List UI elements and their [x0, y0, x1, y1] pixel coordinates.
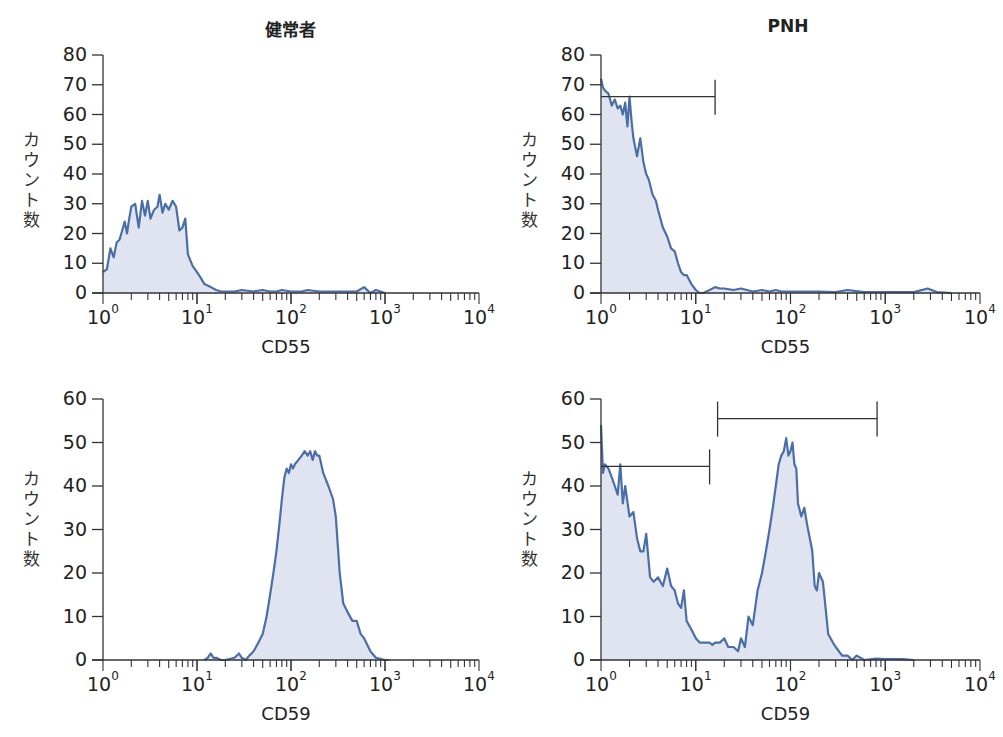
y-axis-label: ト: [521, 190, 538, 210]
y-tick-label: 50: [63, 132, 87, 154]
svg-text:3: 3: [893, 302, 901, 316]
y-tick-label: 0: [75, 648, 87, 670]
x-tick-label: 10: [774, 306, 798, 328]
svg-text:1: 1: [205, 302, 213, 316]
x-axis-label: CD55: [761, 336, 810, 357]
svg-text:1: 1: [704, 669, 712, 683]
svg-text:0: 0: [111, 302, 119, 316]
x-axis-label: CD59: [261, 703, 310, 724]
x-tick-label: 10: [463, 673, 487, 695]
svg-text:3: 3: [893, 669, 901, 683]
y-axis-label: ン: [521, 509, 538, 529]
y-tick-label: 40: [63, 162, 87, 184]
y-axis-label: ン: [23, 170, 40, 190]
histogram-fill: [601, 79, 952, 293]
gate-marker: [718, 402, 877, 437]
x-tick-label: 10: [463, 306, 487, 328]
svg-text:2: 2: [299, 669, 307, 683]
svg-text:3: 3: [393, 302, 401, 316]
y-tick-label: 30: [63, 518, 87, 540]
y-tick-label: 50: [561, 431, 585, 453]
svg-text:1: 1: [704, 302, 712, 316]
x-tick-label: 10: [87, 306, 111, 328]
chart-pnh-cd55: 01020304050607080100101102103104CD55カウント…: [521, 43, 996, 357]
x-tick-label: 10: [680, 306, 704, 328]
y-tick-label: 40: [561, 474, 585, 496]
y-tick-label: 60: [63, 103, 87, 125]
y-tick-label: 20: [63, 222, 87, 244]
y-axis-label: 数: [23, 549, 40, 569]
y-tick-label: 20: [561, 222, 585, 244]
y-axis-label: ウ: [23, 150, 40, 170]
x-tick-label: 10: [275, 306, 299, 328]
y-tick-label: 10: [63, 251, 87, 273]
y-tick-label: 10: [63, 605, 87, 627]
y-axis-label: ウ: [521, 489, 538, 509]
svg-text:0: 0: [609, 302, 617, 316]
x-tick-label: 10: [585, 673, 609, 695]
svg-text:1: 1: [205, 669, 213, 683]
y-axis-label: カ: [521, 130, 538, 150]
y-tick-label: 10: [561, 251, 585, 273]
svg-text:0: 0: [609, 669, 617, 683]
x-tick-label: 10: [869, 306, 893, 328]
y-axis-label: ト: [521, 529, 538, 549]
y-axis-label: カ: [23, 469, 40, 489]
x-axis-label: CD59: [761, 703, 810, 724]
svg-text:4: 4: [487, 302, 495, 316]
y-tick-label: 70: [561, 73, 585, 95]
chart-normal-cd59: 0102030405060100101102103104CD59カウント数: [23, 387, 495, 724]
svg-text:3: 3: [393, 669, 401, 683]
chart-pnh-cd59: 0102030405060100101102103104CD59カウント数: [521, 387, 996, 724]
x-tick-label: 10: [369, 306, 393, 328]
y-tick-label: 80: [63, 43, 87, 65]
svg-text:2: 2: [299, 302, 307, 316]
y-axis-label: 数: [521, 549, 538, 569]
x-tick-label: 10: [369, 673, 393, 695]
y-tick-label: 50: [63, 431, 87, 453]
svg-text:4: 4: [988, 302, 996, 316]
x-tick-label: 10: [869, 673, 893, 695]
x-tick-label: 10: [181, 306, 205, 328]
y-tick-label: 80: [561, 43, 585, 65]
svg-text:2: 2: [799, 302, 807, 316]
y-tick-label: 20: [561, 561, 585, 583]
svg-text:0: 0: [111, 669, 119, 683]
x-tick-label: 10: [275, 673, 299, 695]
x-tick-label: 10: [964, 673, 988, 695]
y-tick-label: 60: [561, 103, 585, 125]
y-tick-label: 0: [75, 281, 87, 303]
x-tick-label: 10: [87, 673, 111, 695]
y-tick-label: 70: [63, 73, 87, 95]
y-axis-label: 数: [521, 210, 538, 230]
charts-canvas: 01020304050607080100101102103104CD55カウント…: [0, 0, 1003, 737]
y-axis-label: 数: [23, 210, 40, 230]
y-axis-label: ト: [23, 190, 40, 210]
y-tick-label: 60: [63, 387, 87, 409]
svg-text:4: 4: [988, 669, 996, 683]
x-tick-label: 10: [181, 673, 205, 695]
x-tick-label: 10: [585, 306, 609, 328]
y-axis-label: ト: [23, 529, 40, 549]
y-tick-label: 20: [63, 561, 87, 583]
y-tick-label: 30: [63, 192, 87, 214]
y-tick-label: 30: [561, 518, 585, 540]
y-tick-label: 30: [561, 192, 585, 214]
svg-text:4: 4: [487, 669, 495, 683]
y-axis-label: ウ: [521, 150, 538, 170]
x-tick-label: 10: [964, 306, 988, 328]
y-axis-label: ン: [23, 509, 40, 529]
x-tick-label: 10: [680, 673, 704, 695]
y-tick-label: 40: [561, 162, 585, 184]
y-tick-label: 40: [63, 474, 87, 496]
gate-marker: [601, 449, 710, 484]
histogram-fill: [204, 451, 389, 660]
y-axis-label: ン: [521, 170, 538, 190]
y-tick-label: 50: [561, 132, 585, 154]
chart-normal-cd55: 01020304050607080100101102103104CD55カウント…: [23, 43, 495, 357]
y-axis-label: カ: [521, 469, 538, 489]
y-tick-label: 60: [561, 387, 585, 409]
x-tick-label: 10: [774, 673, 798, 695]
y-axis-label: カ: [23, 130, 40, 150]
y-tick-label: 0: [573, 281, 585, 303]
